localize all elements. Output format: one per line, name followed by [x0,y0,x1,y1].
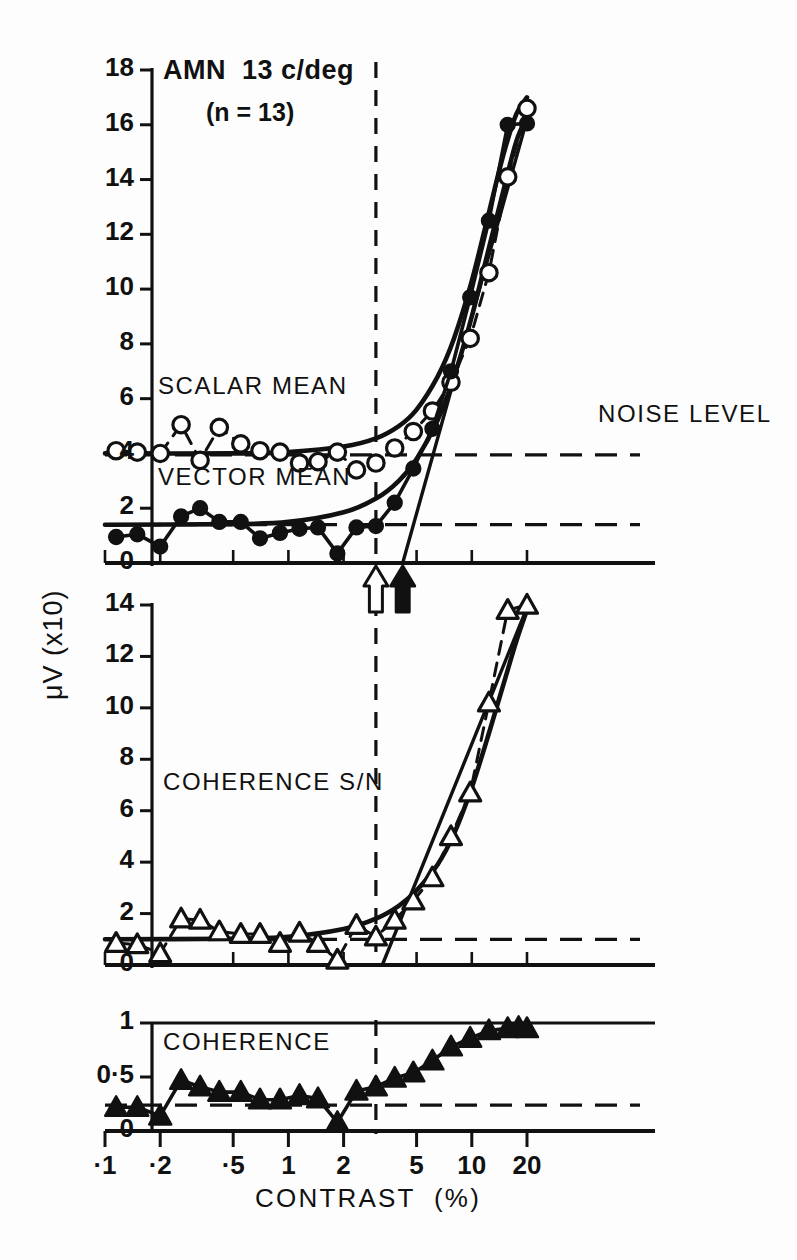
data-point-filled-circle [349,520,364,535]
label-coherence: COHERENCE [163,1028,331,1056]
label-scalar-mean: SCALAR MEAN [158,372,348,400]
data-point-filled-circle [500,117,515,132]
y-axis-label: μV (x10) [38,589,69,700]
y-tick-label-mid: 4 [84,844,134,875]
data-point-filled-circle [292,521,307,536]
data-point-open-circle [500,169,516,185]
y-tick-label-mid: 12 [84,638,134,669]
data-point-open-circle [252,443,268,459]
data-point-filled-circle [174,509,189,524]
x-tick-label: 20 [501,1150,553,1181]
y-tick-label-top: 6 [84,381,134,412]
label-noise-level: NOISE LEVEL [598,400,772,428]
y-tick-label-bot: 0·5 [70,1059,134,1090]
data-point-open-circle [462,330,478,346]
x-tick-label: 2 [318,1150,370,1181]
data-point-filled-circle [406,461,421,476]
y-tick-label-mid: 10 [84,690,134,721]
y-tick-label-mid: 2 [84,896,134,927]
data-point-filled-circle [109,530,124,545]
y-tick-label-bot: 0 [70,1113,134,1144]
y-tick-label-top: 14 [84,162,134,193]
y-tick-label-mid: 6 [84,793,134,824]
data-point-open-circle [152,445,168,461]
filled-threshold-arrow-icon [391,566,415,612]
data-point-open-circle [211,419,227,435]
y-tick-label-top: 16 [84,107,134,138]
figure-title: AMN 13 c/deg [163,55,354,86]
data-series [105,100,538,1131]
data-point-filled-circle [153,539,168,554]
data-point-filled-circle [330,546,345,561]
data-point-filled-circle [520,116,535,131]
y-tick-label-top: 2 [84,490,134,521]
data-point-open-circle [368,455,384,471]
x-axis-label: CONTRAST (%) [255,1183,481,1214]
data-point-open-circle [233,436,249,452]
data-point-filled-circle [212,515,227,530]
data-point-filled-triangle [289,1084,311,1104]
y-tick-label-top: 8 [84,326,134,357]
data-point-filled-circle [273,525,288,540]
y-tick-label-bot: 1 [70,1005,134,1036]
x-tick-label: ·1 [79,1150,131,1181]
data-point-open-circle [387,440,403,456]
data-point-open-triangle [422,867,443,886]
fit-curve-scalar-mean-fitted [105,97,527,453]
x-tick-label: 10 [446,1150,498,1181]
data-point-open-triangle [289,922,310,941]
x-tick-label: ·5 [207,1150,259,1181]
open-threshold-arrow-icon [364,566,388,612]
data-point-open-circle [272,444,288,460]
data-point-open-triangle [209,921,230,940]
data-point-open-triangle [517,595,538,614]
y-tick-label-mid: 0 [84,947,134,978]
data-point-filled-circle [444,364,459,379]
label-coherence-sn: COHERENCE S/N [163,768,384,796]
data-point-filled-circle [233,515,248,530]
label-vector-mean: VECTOR MEAN [158,463,351,491]
y-tick-label-mid: 14 [84,587,134,618]
data-point-open-circle [329,444,345,460]
data-point-open-circle [405,423,421,439]
y-tick-label-top: 4 [84,435,134,466]
data-point-open-circle [481,264,497,280]
data-point-open-circle [173,416,189,432]
threshold-arrows [364,566,415,612]
data-point-filled-circle [387,495,402,510]
x-tick-label: 1 [262,1150,314,1181]
data-point-open-triangle [171,908,192,927]
data-point-filled-circle [130,527,145,542]
y-tick-label-top: 10 [84,271,134,302]
y-tick-label-top: 18 [84,52,134,83]
data-point-filled-circle [368,519,383,534]
y-tick-label-top: 0 [84,545,134,576]
data-point-filled-circle [253,531,268,546]
x-tick-label: ·2 [134,1150,186,1181]
y-tick-label-top: 12 [84,216,134,247]
data-point-filled-triangle [402,1062,424,1082]
data-point-filled-circle [425,421,440,436]
data-point-open-triangle [460,782,481,801]
data-point-open-circle [519,100,535,116]
data-point-filled-circle [311,520,326,535]
x-tick-label: 5 [391,1150,443,1181]
y-tick-label-mid: 8 [84,741,134,772]
data-point-filled-circle [193,501,208,516]
data-point-filled-circle [463,290,478,305]
figure-canvas: AMN 13 c/deg (n = 13) SCALAR MEAN VECTOR… [0,0,797,1260]
data-point-filled-triangle [170,1069,192,1089]
data-point-filled-circle [482,213,497,228]
figure-subtitle: (n = 13) [206,98,294,127]
